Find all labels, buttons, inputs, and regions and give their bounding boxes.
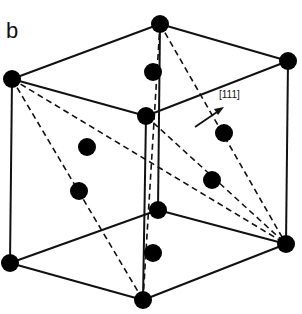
- direction-arrow: [195, 107, 224, 127]
- crystal-diagram: b [111]: [0, 0, 302, 314]
- unit-cell-drawing: [0, 0, 302, 314]
- direction-label: [111]: [219, 89, 240, 100]
- panel-label: b: [6, 18, 18, 44]
